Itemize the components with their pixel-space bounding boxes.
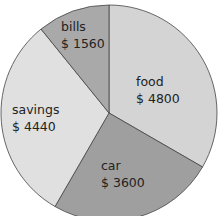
label-name: bills xyxy=(61,18,105,35)
label-value: $ 1560 xyxy=(61,35,105,52)
slice-label-savings: savings $ 4440 xyxy=(12,101,59,135)
slice-label-bills: bills $ 1560 xyxy=(61,18,105,52)
label-value: $ 4440 xyxy=(12,118,59,135)
label-name: food xyxy=(136,73,180,90)
slice-label-food: food $ 4800 xyxy=(136,73,180,107)
slice-label-car: car $ 3600 xyxy=(101,157,145,191)
label-name: car xyxy=(101,157,145,174)
label-name: savings xyxy=(12,101,59,118)
label-value: $ 3600 xyxy=(101,174,145,191)
label-value: $ 4800 xyxy=(136,90,180,107)
